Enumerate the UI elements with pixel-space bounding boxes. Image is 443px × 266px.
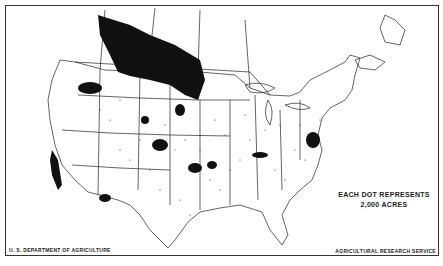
map-legend: EACH DOT REPRESENTS 2,000 ACRES	[336, 190, 432, 210]
credit-ars: AGRICULTURAL RESEARCH SERVICE	[335, 248, 436, 254]
dot-density-map	[0, 0, 443, 266]
credit-usda: U. S. DEPARTMENT OF AGRICULTURE	[9, 247, 111, 253]
prairie-dense-region	[98, 15, 205, 100]
legend-line-1: EACH DOT REPRESENTS	[336, 190, 432, 200]
scattered-dots	[99, 99, 320, 215]
legend-line-2: 2,000 ACRES	[336, 200, 432, 210]
